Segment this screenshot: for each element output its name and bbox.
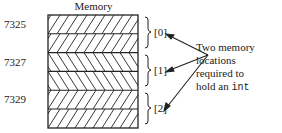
annotation-code: int	[231, 82, 249, 93]
annotation-line-2: locations	[196, 54, 255, 67]
annotation-line-3: required to	[196, 67, 255, 80]
index-braces	[145, 17, 151, 124]
index-label-1: [1]	[154, 64, 167, 76]
annotation-line-4: hold an int	[196, 80, 255, 94]
index-label-0: [0]	[154, 26, 167, 38]
annotation-prefix: hold an	[196, 80, 231, 92]
annotation-text: Two memory locations required to hold an…	[196, 41, 255, 94]
index-label-2: [2]	[154, 102, 167, 114]
annotation-line-1: Two memory	[196, 41, 255, 54]
